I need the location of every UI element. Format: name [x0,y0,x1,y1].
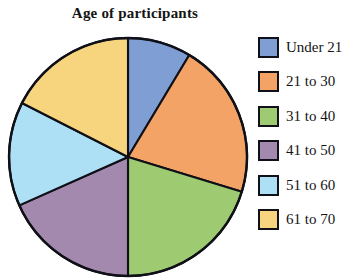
legend-swatch-icon [258,37,279,58]
chart-legend: Under 2121 to 3031 to 4041 to 5051 to 60… [258,30,363,237]
legend-item-label: 41 to 50 [286,143,335,158]
legend-item-label: Under 21 [286,40,342,55]
legend-item-61-to-70[interactable]: 61 to 70 [258,203,363,238]
legend-swatch-icon [258,209,279,230]
legend-item-label: 31 to 40 [286,109,335,124]
legend-item-21-to-30[interactable]: 21 to 30 [258,65,363,100]
legend-swatch-icon [258,106,279,127]
legend-item-41-to-50[interactable]: 41 to 50 [258,134,363,169]
legend-swatch-icon [258,71,279,92]
legend-item-label: 21 to 30 [286,74,335,89]
legend-item-under-21[interactable]: Under 21 [258,30,363,65]
legend-item-31-to-40[interactable]: 31 to 40 [258,99,363,134]
legend-swatch-icon [258,175,279,196]
pie-chart-svg [0,0,260,278]
pie-chart-figure: Age of participants Under 2121 to 3031 t… [0,0,363,278]
legend-swatch-icon [258,140,279,161]
legend-item-label: 51 to 60 [286,178,335,193]
legend-item-51-to-60[interactable]: 51 to 60 [258,168,363,203]
legend-item-label: 61 to 70 [286,212,335,227]
pie-chart-plot-area [0,0,260,278]
